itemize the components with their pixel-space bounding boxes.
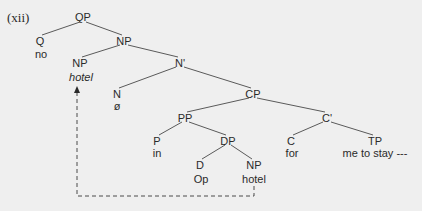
word-no: no xyxy=(35,48,47,60)
branch-qp-np xyxy=(86,22,122,35)
node-tp: TP xyxy=(368,135,382,147)
node-dp: DP xyxy=(220,135,235,147)
word-for: for xyxy=(286,147,299,159)
node-d: D xyxy=(196,159,204,171)
node-n: N xyxy=(113,88,121,100)
branch-dp-d xyxy=(202,145,225,159)
branch-nbar-n xyxy=(119,67,176,88)
word-null: ø xyxy=(114,100,121,112)
branch-pp-dp xyxy=(189,122,226,135)
node-q: Q xyxy=(36,35,45,47)
tree-branches xyxy=(0,0,422,211)
branch-np-nbar xyxy=(128,45,178,57)
word-in: in xyxy=(153,147,162,159)
node-cbar: C' xyxy=(322,112,332,124)
example-number: (xii) xyxy=(7,10,29,26)
syntax-tree-diagram: (xii) QP Q no NP NP hotel N' N ø CP PP P… xyxy=(0,0,422,211)
branch-cbar-tp xyxy=(331,122,373,135)
node-qp: QP xyxy=(75,11,91,23)
arrowhead-icon xyxy=(74,86,80,93)
word-hotel-copy: hotel xyxy=(242,173,266,185)
node-c: C xyxy=(287,135,295,147)
branch-dp-np xyxy=(231,145,252,159)
word-me-to-stay: me to stay --- xyxy=(343,147,408,159)
branch-cp-pp xyxy=(187,98,249,112)
branch-nbar-cp xyxy=(184,67,251,88)
branch-qp-q xyxy=(42,22,80,35)
branch-cp-cbar xyxy=(257,98,325,112)
word-op: Op xyxy=(194,173,209,185)
branch-np-np xyxy=(82,45,120,57)
branch-cbar-c xyxy=(293,122,323,135)
node-cp: CP xyxy=(245,88,260,100)
node-np-low: NP xyxy=(246,159,261,171)
word-hotel-head: hotel xyxy=(69,71,93,83)
node-nbar: N' xyxy=(175,57,185,69)
node-p: P xyxy=(153,135,160,147)
node-np-hotel: NP xyxy=(72,57,87,69)
node-pp: PP xyxy=(178,112,193,124)
node-np-top: NP xyxy=(116,35,131,47)
